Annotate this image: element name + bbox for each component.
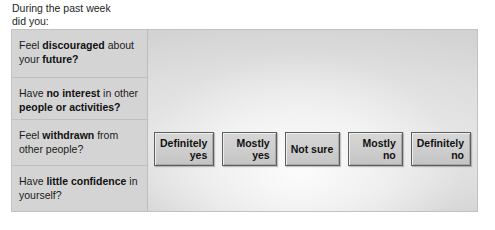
- question-text-withdrawn: Feel withdrawn from other people?: [19, 129, 140, 156]
- answer-label-line-2: no: [451, 149, 464, 161]
- question-segment: Have: [19, 175, 46, 187]
- answer-button-not-sure[interactable]: Not sure: [285, 132, 341, 166]
- answer-button-definitely-yes[interactable]: Definitely yes: [154, 132, 214, 166]
- question-text-little-confidence: Have little confidence in yourself?: [19, 175, 140, 202]
- question-text-no-interest: Have no interest in other people or acti…: [19, 87, 140, 114]
- answer-button-mostly-no[interactable]: Mostly no: [348, 132, 402, 166]
- question-segment-bold: little confidence: [46, 175, 126, 187]
- question-segment: Feel: [19, 39, 42, 51]
- questionnaire-panel: Feel discouraged about your future? Have…: [11, 29, 478, 212]
- answer-options-row: Definitely yes Mostly yes Not sure Mostl…: [152, 130, 473, 168]
- questionnaire-screen: During the past week did you: Feel disco…: [0, 0, 495, 230]
- question-row: Have little confidence in yourself?: [12, 166, 147, 211]
- question-segment-bold: discouraged: [42, 39, 104, 51]
- answer-area: Definitely yes Mostly yes Not sure Mostl…: [148, 30, 477, 211]
- answer-label-line-1: Definitely: [160, 137, 207, 149]
- answer-button-definitely-no[interactable]: Definitely no: [411, 132, 471, 166]
- question-segment-bold: future?: [42, 53, 78, 65]
- question-segment-bold: no interest: [46, 87, 100, 99]
- question-segment: Have: [19, 87, 46, 99]
- answer-label-line-2: yes: [190, 149, 208, 161]
- question-row: Feel discouraged about your future?: [12, 30, 147, 78]
- answer-label-line-2: yes: [252, 149, 270, 161]
- question-segment: Feel: [19, 129, 42, 141]
- answer-label-line-1: Mostly: [362, 137, 395, 149]
- answer-label-line-2: no: [383, 149, 396, 161]
- answer-label-line-1: Not sure: [291, 143, 334, 155]
- question-column: Feel discouraged about your future? Have…: [12, 30, 148, 211]
- question-text-discouraged-future: Feel discouraged about your future?: [19, 39, 140, 66]
- answer-label-line-1: Definitely: [417, 137, 464, 149]
- question-segment-bold: people or activities?: [19, 101, 121, 113]
- answer-button-mostly-yes[interactable]: Mostly yes: [222, 132, 276, 166]
- question-segment-bold: withdrawn: [42, 129, 94, 141]
- question-segment: in other: [100, 87, 138, 99]
- question-row: Feel withdrawn from other people?: [12, 120, 147, 166]
- answer-label-line-1: Mostly: [236, 137, 269, 149]
- prompt-heading: During the past week did you:: [12, 2, 192, 27]
- question-row: Have no interest in other people or acti…: [12, 78, 147, 120]
